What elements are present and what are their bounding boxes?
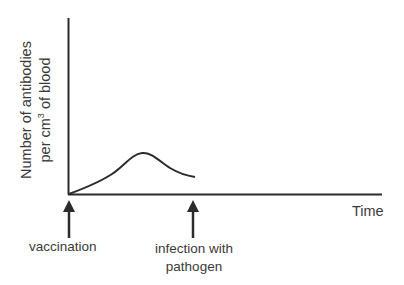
vaccination-label: vaccination bbox=[29, 238, 97, 256]
y-axis-label-line2: per cm3 of blood bbox=[36, 41, 55, 179]
infection-arrow-icon bbox=[187, 200, 199, 238]
infection-label-line2: pathogen bbox=[153, 258, 235, 276]
antibody-curve bbox=[69, 153, 195, 194]
x-axis-label: Time bbox=[352, 202, 384, 220]
vaccination-arrow-icon bbox=[63, 200, 75, 238]
y-axis-label-line1: Number of antibodies bbox=[17, 41, 36, 179]
infection-label: infection with pathogen bbox=[153, 240, 235, 276]
infection-label-line1: infection with bbox=[153, 240, 235, 258]
